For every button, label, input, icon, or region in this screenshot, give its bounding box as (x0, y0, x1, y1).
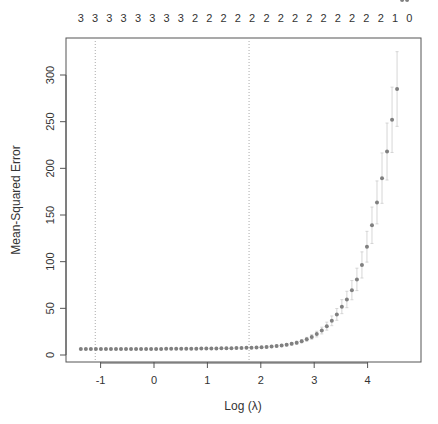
top-axis-label: 3 (78, 12, 84, 24)
data-point (405, 0, 409, 2)
data-point (94, 347, 98, 351)
x-tick-label: 1 (204, 374, 210, 386)
data-point (144, 347, 148, 351)
data-point (99, 347, 103, 351)
data-point (164, 347, 168, 351)
data-point (79, 347, 83, 351)
top-axis-label: 3 (121, 12, 127, 24)
reference-lines (95, 38, 249, 362)
data-point (109, 347, 113, 351)
data-point (189, 347, 193, 351)
top-axis-label: 2 (349, 12, 355, 24)
data-point (390, 118, 394, 122)
data-point (204, 347, 208, 351)
data-point (119, 347, 123, 351)
data-point (169, 347, 173, 351)
data-point (340, 305, 344, 309)
data-point (280, 343, 284, 347)
data-points (79, 0, 409, 351)
data-point (305, 337, 309, 341)
data-point (159, 347, 163, 351)
data-point (370, 223, 374, 227)
y-axis-label: Mean-Squared Error (9, 145, 23, 254)
data-point (290, 342, 294, 346)
data-point (134, 347, 138, 351)
data-point (124, 347, 128, 351)
data-point (265, 345, 269, 349)
x-tick-label: -1 (96, 374, 106, 386)
top-axis-label: 3 (163, 12, 169, 24)
y-tick-label: 0 (44, 352, 56, 358)
data-point (84, 347, 88, 351)
top-axis-label: 3 (106, 12, 112, 24)
data-point (179, 347, 183, 351)
data-point (255, 345, 259, 349)
y-tick-label: 150 (44, 206, 56, 224)
data-point (219, 346, 223, 350)
top-axis-label: 3 (92, 12, 98, 24)
data-point (355, 277, 359, 281)
data-point (250, 346, 254, 350)
data-point (224, 346, 228, 350)
data-point (209, 346, 213, 350)
data-point (234, 346, 238, 350)
top-axis-label: 2 (292, 12, 298, 24)
data-point (199, 347, 203, 351)
data-point (114, 347, 118, 351)
plot-frame (66, 38, 421, 362)
top-axis-label: 2 (192, 12, 198, 24)
data-point (310, 335, 314, 339)
top-axis-label: 2 (235, 12, 241, 24)
top-axis-label: 2 (263, 12, 269, 24)
data-point (325, 324, 329, 328)
top-axis-labels: 333333332222222222222210 (78, 12, 413, 24)
y-tick-label: 250 (44, 112, 56, 130)
data-point (345, 297, 349, 301)
data-point (129, 347, 133, 351)
top-axis-label: 3 (149, 12, 155, 24)
data-point (260, 345, 264, 349)
top-axis-label: 2 (221, 12, 227, 24)
top-axis-label: 3 (135, 12, 141, 24)
top-axis-label: 2 (378, 12, 384, 24)
data-point (89, 347, 93, 351)
top-axis-label: 2 (363, 12, 369, 24)
top-axis-label: 2 (321, 12, 327, 24)
data-point (375, 200, 379, 204)
data-point (194, 347, 198, 351)
data-point (330, 319, 334, 323)
y-tick-label: 50 (44, 302, 56, 314)
data-point (350, 288, 354, 292)
data-point (275, 344, 279, 348)
x-axis: -101234 (96, 362, 371, 386)
top-axis-label: 2 (335, 12, 341, 24)
x-axis-label: Log (λ) (224, 399, 261, 413)
y-axis: 050100150200250300 (44, 66, 66, 358)
data-point (400, 0, 404, 2)
data-point (214, 346, 218, 350)
top-axis-label: 1 (392, 12, 398, 24)
x-tick-label: 4 (365, 374, 371, 386)
y-tick-label: 200 (44, 159, 56, 177)
data-point (320, 329, 324, 333)
data-point (385, 150, 389, 154)
chart: 333333332222222222222210 -101234 0501001… (0, 0, 438, 424)
data-point (184, 347, 188, 351)
top-axis-label: 0 (406, 12, 412, 24)
data-point (285, 343, 289, 347)
data-point (335, 312, 339, 316)
data-point (270, 345, 274, 349)
data-point (174, 347, 178, 351)
y-tick-label: 100 (44, 252, 56, 270)
data-point (149, 347, 153, 351)
top-axis-label: 3 (178, 12, 184, 24)
data-point (139, 347, 143, 351)
data-point (295, 341, 299, 345)
top-axis-label: 2 (278, 12, 284, 24)
data-point (244, 346, 248, 350)
x-tick-label: 2 (258, 374, 264, 386)
data-point (395, 87, 399, 91)
data-point (380, 176, 384, 180)
data-point (360, 263, 364, 267)
x-tick-label: 3 (311, 374, 317, 386)
